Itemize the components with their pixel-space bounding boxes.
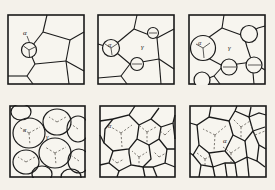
alpha-label: α: [23, 29, 27, 37]
panel-5-drawing: α: [99, 105, 176, 178]
panel-6-completed-structure-stage: α: [189, 105, 267, 178]
gamma-label: γ: [141, 43, 144, 51]
panel-5-late-impingement-stage: α: [99, 105, 176, 178]
panel-3-grain-growth-stage: α γ: [188, 14, 266, 85]
panel-1-drawing: α: [7, 14, 85, 85]
alpha-grain-bottom-left: [194, 72, 210, 85]
panel-2-drawing: α γ: [97, 14, 175, 85]
grain-growth-figure: α: [0, 0, 275, 190]
panel-2-early-growth-stage: α γ: [97, 14, 175, 85]
panel-1-nucleation-stage: α: [7, 14, 85, 85]
panel-4-drawing: α γ: [9, 105, 86, 178]
alpha-label: α: [223, 137, 227, 145]
panel-3-drawing: α γ: [188, 14, 266, 85]
panel-border: [8, 15, 84, 84]
panel-4-impingement-stage: α γ: [9, 105, 86, 178]
alpha-grain-top-right: [241, 26, 258, 43]
gamma-label: γ: [228, 44, 231, 52]
panel-6-drawing: α: [189, 105, 267, 178]
